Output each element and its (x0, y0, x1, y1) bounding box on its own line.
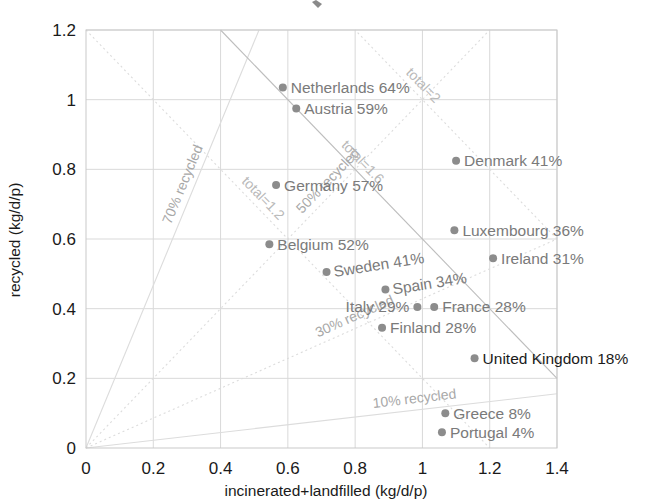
title-remnant-glyph (312, 0, 322, 8)
data-label-finland: Finland 28% (390, 319, 476, 336)
data-label-netherlands: Netherlands 64% (291, 79, 410, 96)
data-point-luxembourg (450, 226, 458, 234)
data-label-spain-group: Spain 34% (391, 269, 468, 298)
x-tick-0.6: 0.6 (276, 459, 300, 478)
data-label-spain: Spain 34% (391, 269, 468, 298)
data-label-ireland: Ireland 31% (501, 250, 584, 267)
cropped-title-artifact (312, 0, 322, 8)
data-label-italy: Italy 29% (346, 298, 410, 315)
x-tick-1.4: 1.4 (545, 459, 569, 478)
x-tick-1.2: 1.2 (478, 459, 502, 478)
x-axis-tick-labels: 00.20.40.60.811.21.4 (81, 459, 569, 478)
data-point-netherlands (279, 83, 287, 91)
y-tick-0: 0 (67, 439, 76, 458)
x-tick-0: 0 (81, 459, 90, 478)
y-tick-1: 1 (67, 91, 76, 110)
y-axis-title: recycled (kg/d/p) (6, 183, 23, 298)
data-label-luxembourg: Luxembourg 36% (462, 222, 584, 239)
data-point-spain (381, 286, 389, 294)
data-label-sweden-group: Sweden 41% (332, 249, 425, 280)
data-label-greece: Greece 8% (453, 405, 531, 422)
scatter-plot-svg: 70% recycled50% recycled30% recycled10% … (0, 0, 652, 502)
data-point-belgium (265, 240, 273, 248)
y-tick-0.6: 0.6 (52, 230, 76, 249)
data-point-denmark (452, 157, 460, 165)
y-tick-0.8: 0.8 (52, 160, 76, 179)
data-point-austria (292, 104, 300, 112)
y-tick-0.4: 0.4 (52, 300, 76, 319)
y-tick-1.2: 1.2 (52, 21, 76, 40)
total-line-label-1.2: total=1.2 (239, 173, 288, 223)
data-point-united-kingdom (471, 354, 479, 362)
x-tick-0.8: 0.8 (343, 459, 367, 478)
chart-figure: 70% recycled50% recycled30% recycled10% … (0, 0, 652, 502)
x-tick-0.4: 0.4 (209, 459, 233, 478)
data-label-germany: Germany 57% (284, 177, 383, 194)
data-label-austria: Austria 59% (304, 100, 388, 117)
data-label-denmark: Denmark 41% (464, 152, 562, 169)
data-label-portugal: Portugal 4% (450, 424, 535, 441)
data-label-france: France 28% (442, 298, 526, 315)
data-label-sweden: Sweden 41% (332, 249, 425, 280)
total-line-2 (355, 30, 557, 239)
data-point-germany (272, 181, 280, 189)
x-axis-title: incinerated+landfilled (kg/d/p) (225, 482, 428, 499)
data-point-sweden (323, 268, 331, 276)
x-tick-0.2: 0.2 (141, 459, 165, 478)
data-point-france (430, 303, 438, 311)
recycled-ray-label-70: 70% recycled (159, 142, 206, 226)
data-label-united-kingdom: United Kingdom 18% (483, 350, 629, 367)
data-point-italy (413, 303, 421, 311)
data-point-ireland (489, 254, 497, 262)
x-tick-1: 1 (418, 459, 427, 478)
total-label-group-1.2: total=1.2 (239, 173, 288, 223)
y-axis-tick-labels: 00.20.40.60.811.2 (52, 21, 76, 458)
data-point-greece (441, 409, 449, 417)
y-tick-0.2: 0.2 (52, 369, 76, 388)
data-point-finland (378, 324, 386, 332)
data-point-portugal (438, 428, 446, 436)
recycled-ray-label-group-70: 70% recycled (159, 142, 206, 226)
data-label-belgium: Belgium 52% (277, 236, 369, 253)
